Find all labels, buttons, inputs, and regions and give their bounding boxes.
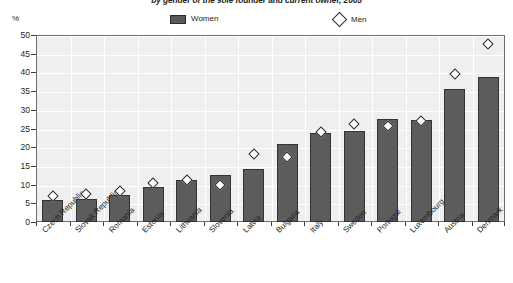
y-axis-label: 20 [0,143,30,151]
y-axis-tick [31,147,36,148]
gridline-vertical [171,36,172,221]
y-axis-label-text: 0 [4,218,30,226]
x-axis-tick [170,222,171,226]
x-axis-tick [36,222,37,226]
x-axis-tick [405,222,406,226]
gridline-horizontal [37,92,504,93]
x-axis-tick [271,222,272,226]
y-axis-tick [31,35,36,36]
y-axis-tick [31,203,36,204]
y-axis-tick [31,91,36,92]
y-axis-unit: % [12,14,19,23]
gridline-vertical [205,36,206,221]
legend-label-men: Men [351,15,367,25]
bar-women [444,89,465,222]
gridline-vertical [238,36,239,221]
y-axis-label: 10 [0,181,30,189]
y-axis-label-text: 15 [4,162,30,170]
y-axis-label-text: 40 [4,68,30,76]
y-axis-label: 30 [0,106,30,114]
x-axis-tick [204,222,205,226]
chart-title-text: by gender of the sole founder and curren… [0,0,513,6]
gridline-vertical [104,36,105,221]
y-axis-label: 35 [0,87,30,95]
y-axis-label: 15 [0,162,30,170]
gridline-vertical [473,36,474,221]
gridline-horizontal [37,55,504,56]
y-axis-label: 50 [0,31,30,39]
y-axis-label-text: 45 [4,50,30,58]
y-axis-label-text: 5 [4,199,30,207]
y-axis-tick [31,54,36,55]
gridline-vertical [138,36,139,221]
bar-women [243,169,264,222]
y-axis-tick [31,72,36,73]
y-axis-tick [31,110,36,111]
bar-women [310,133,331,222]
gridline-horizontal [37,167,504,168]
gridline-vertical [406,36,407,221]
bar-women [377,119,398,222]
legend-swatch-men-diamond-icon [332,12,348,28]
y-axis-label-text: 25 [4,125,30,133]
legend-item-men: Men [333,14,367,25]
x-axis-tick [472,222,473,226]
y-axis-label-text: 30 [4,106,30,114]
gridline-vertical [305,36,306,221]
x-axis-tick [103,222,104,226]
y-axis-label: 0 [0,218,30,226]
gridline-vertical [71,36,72,221]
x-axis-tick [70,222,71,226]
gridline-vertical [439,36,440,221]
y-axis-tick [31,166,36,167]
gridline-vertical [339,36,340,221]
legend-label-women: Women [191,14,218,24]
gridline-horizontal [37,130,504,131]
chart-title: by gender of the sole founder and curren… [0,0,513,7]
gridline-horizontal [37,148,504,149]
x-axis-tick [237,222,238,226]
gridline-vertical [272,36,273,221]
bar-women [478,77,499,222]
x-axis-tick [504,222,505,226]
y-axis-label: 45 [0,50,30,58]
gridline-horizontal [37,36,504,37]
y-axis-label: 25 [0,125,30,133]
y-axis-tick [31,129,36,130]
x-axis-tick [137,222,138,226]
x-axis-tick [304,222,305,226]
y-axis-label-text: 35 [4,87,30,95]
chart-figure: by gender of the sole founder and curren… [0,0,513,283]
x-axis-tick [438,222,439,226]
legend-swatch-women-icon [170,15,186,24]
gridline-vertical [372,36,373,221]
chart-legend: Women Men [0,14,513,28]
y-axis-label: 5 [0,199,30,207]
x-axis-tick [338,222,339,226]
x-axis-tick [371,222,372,226]
y-axis-label-text: 20 [4,143,30,151]
y-axis-tick [31,185,36,186]
y-axis-label: 40 [0,68,30,76]
y-axis-label-text: 50 [4,31,30,39]
gridline-horizontal [37,186,504,187]
y-axis-label-text: 10 [4,181,30,189]
gridline-horizontal [37,73,504,74]
gridline-horizontal [37,111,504,112]
legend-item-women: Women [170,14,218,24]
